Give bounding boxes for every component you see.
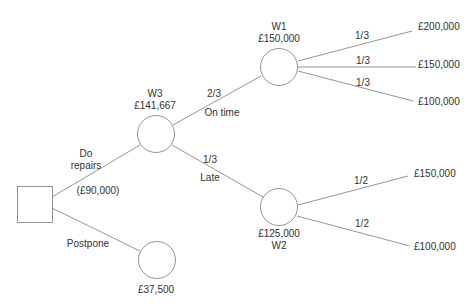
w2-outcome-1-probability: 1/2 <box>354 175 368 186</box>
late-probability: 1/3 <box>203 154 217 165</box>
decision-tree-diagram: Do repairs (£90,000) Postpone £37,500 W3… <box>0 0 467 304</box>
w2-name: W2 <box>272 240 287 251</box>
edge-w2-outcome-2 <box>297 216 410 246</box>
late-label: Late <box>200 172 220 183</box>
do-repairs-label-line1: Do <box>80 148 93 159</box>
w1-outcome-3-value: £100,000 <box>418 96 460 107</box>
postpone-value: £37,500 <box>138 284 175 295</box>
do-repairs-label-line2: repairs <box>71 160 102 171</box>
w2-outcome-2-value: £100,000 <box>414 241 456 252</box>
w3-name: W3 <box>148 88 163 99</box>
w1-outcome-2-value: £150,000 <box>418 59 460 70</box>
w3-value: £141,667 <box>134 100 176 111</box>
postpone-label: Postpone <box>67 238 110 249</box>
edge-w2-outcome-1 <box>298 176 408 205</box>
do-repairs-cost: (£90,000) <box>77 185 120 196</box>
w2-outcome-1-value: £150,000 <box>414 168 456 179</box>
edge-late <box>172 145 263 197</box>
chance-node-w1 <box>261 49 298 86</box>
on-time-probability: 2/3 <box>207 88 221 99</box>
on-time-label: On time <box>204 107 239 118</box>
w1-name: W1 <box>272 21 287 32</box>
w1-outcome-1-value: £200,000 <box>418 21 460 32</box>
chance-node-w2 <box>261 189 298 226</box>
w1-outcome-1-probability: 1/3 <box>355 30 369 41</box>
w1-outcome-3-probability: 1/3 <box>356 77 370 88</box>
w1-outcome-2-probability: 1/3 <box>356 55 370 66</box>
w2-outcome-2-probability: 1/2 <box>355 218 369 229</box>
decision-node-square <box>18 187 53 223</box>
w1-value: £150,000 <box>258 33 300 44</box>
chance-node-postpone <box>139 242 176 279</box>
w2-value: £125,000 <box>258 228 300 239</box>
chance-node-w3 <box>138 116 175 153</box>
